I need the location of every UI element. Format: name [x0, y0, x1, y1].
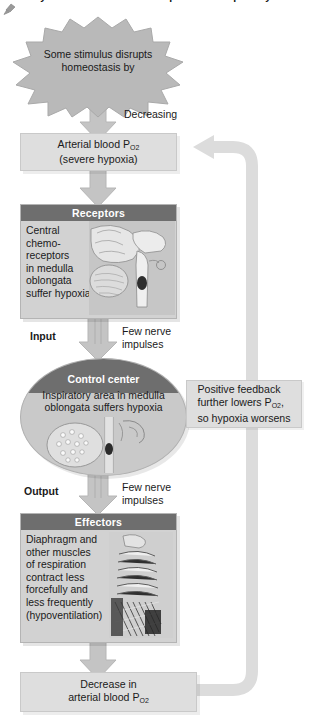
feedback-note-box: Positive feedback further lowers PO2, so… — [186, 380, 302, 428]
diagram-canvas: ity of the central chemoreceptors and in… — [0, 0, 313, 728]
arterial-line-1: Arterial blood PO2 — [58, 138, 140, 150]
control-center-text: Inspiratory area in medulla oblongata su… — [21, 390, 186, 415]
input-label: Input — [30, 330, 56, 343]
effectors-header: Effectors — [21, 514, 176, 530]
effectors-panel: Effectors Diaphragm and other muscles of… — [20, 513, 177, 643]
output-note: Few nerve impulses — [122, 481, 171, 506]
decrease-line-1: Decrease in — [80, 678, 137, 690]
brain-medulla-sagittal-illustration — [89, 221, 175, 315]
receptors-text: Central chemo- receptors in medulla oblo… — [26, 225, 91, 301]
arterial-line-2: (severe hypoxia) — [59, 153, 137, 165]
receptors-panel: Receptors Central chemo- receptors in me… — [20, 204, 177, 319]
stimulus-line-1: Some stimulus disrupts — [44, 48, 153, 60]
feedback-note-line-2: further lowers PO2, — [197, 396, 283, 408]
ribcage-respiratory-muscles-illustration — [109, 532, 173, 638]
feedback-note-line-3: so hypoxia worsens — [197, 412, 290, 424]
decreasing-label: Decreasing — [124, 108, 177, 121]
stimulus-text: Some stimulus disrupts homeostasis by — [20, 48, 176, 73]
decrease-arterial-box: Decrease in arterial blood PO2 — [20, 672, 197, 712]
effectors-text: Diaphragm and other muscles of respirati… — [26, 534, 102, 622]
arterial-blood-box: Arterial blood PO2 (severe hypoxia) — [20, 133, 177, 171]
receptors-header: Receptors — [21, 205, 176, 221]
feedback-note-line-1: Positive feedback — [197, 383, 280, 395]
output-label: Output — [24, 485, 58, 498]
control-center-header: Control center — [21, 373, 186, 385]
medulla-oblongata-cross-section-illustration — [39, 417, 167, 473]
arrow-receptors-to-control-center — [76, 316, 120, 362]
input-note: Few nerve impulses — [122, 325, 171, 350]
arrow-arterial-to-receptors — [76, 168, 120, 208]
control-center-ellipse: Control center Inspiratory area in medul… — [20, 358, 187, 476]
stimulus-line-2: homeostasis by — [62, 61, 135, 73]
decrease-line-2: arterial blood PO2 — [68, 691, 149, 703]
